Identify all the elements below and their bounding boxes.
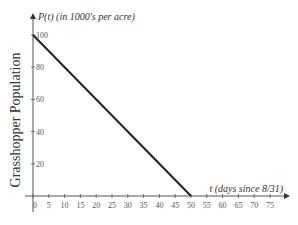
x-tick-label: 5 (47, 201, 51, 210)
x-tick-label: 40 (155, 201, 163, 210)
x-tick-label: 50 (187, 201, 195, 210)
y-axis-label: Grasshopper Population (8, 53, 23, 188)
x-tick-label: 60 (219, 201, 227, 210)
x-tick-label: 65 (234, 201, 242, 210)
x-tick-label: 55 (203, 201, 211, 210)
x-tick-label: 0 (33, 201, 37, 210)
line-chart: Grasshopper Population P(t) (in 1000's p… (0, 0, 298, 225)
data-line (33, 35, 191, 196)
y-tick-label: 60 (36, 95, 44, 104)
x-axis-title: t (days since 8/31) (209, 183, 283, 195)
x-tick-label: 30 (124, 201, 132, 210)
x-tick-label: 35 (140, 201, 148, 210)
y-tick-label: 80 (36, 63, 44, 72)
x-tick-label: 25 (108, 201, 116, 210)
x-tick-label: 70 (250, 201, 258, 210)
x-tick-label: 20 (92, 201, 100, 210)
x-tick-label: 15 (76, 201, 84, 210)
x-tick-label: 45 (171, 201, 179, 210)
x-tick-label: 75 (266, 201, 274, 210)
y-tick-label: 40 (36, 128, 44, 137)
x-tick-label: 10 (61, 201, 69, 210)
y-axis-title: P(t) (in 1000's per acre) (37, 11, 135, 23)
y-tick-label: 20 (36, 160, 44, 169)
